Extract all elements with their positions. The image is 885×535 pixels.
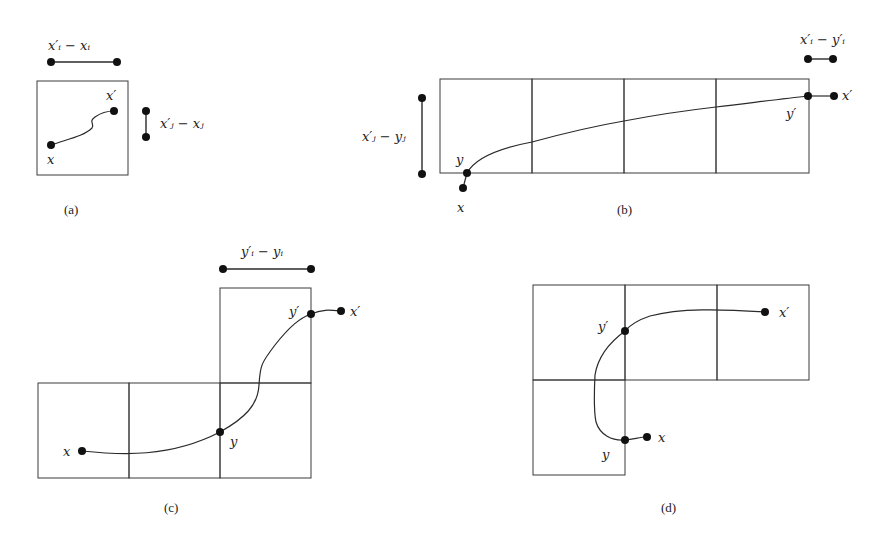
label-c-x: x bbox=[63, 444, 71, 459]
grid-cell bbox=[716, 79, 809, 173]
endpoint-dot bbox=[418, 94, 426, 102]
point-x bbox=[78, 447, 86, 455]
path-curve bbox=[51, 111, 114, 145]
endpoint-dot bbox=[142, 107, 150, 115]
label-d-y-prime: y′ bbox=[597, 319, 608, 334]
point-x-prime bbox=[337, 307, 345, 315]
endpoint-dot bbox=[804, 55, 812, 63]
panel-a: x′ᵢ − xᵢ x x′ x′ⱼ − xⱼ (a) bbox=[37, 38, 204, 217]
point-x bbox=[643, 433, 651, 441]
label-b-y: y bbox=[455, 152, 464, 167]
panel-b: x′ᵢ − y′ᵢ x′ⱼ − yⱼ x y y′ x′ (b) bbox=[362, 32, 852, 217]
label-d-y: y bbox=[601, 447, 610, 462]
endpoint-dot bbox=[142, 133, 150, 141]
grid-cell bbox=[625, 285, 717, 380]
figure: x′ᵢ − xᵢ x x′ x′ⱼ − xⱼ (a) x′ᵢ − y′ᵢ bbox=[0, 0, 885, 535]
point-y bbox=[216, 428, 224, 436]
grid-cell bbox=[440, 79, 532, 173]
point-x bbox=[47, 141, 55, 149]
caption-d: (d) bbox=[661, 500, 676, 515]
grid-cell bbox=[533, 380, 625, 475]
path-curve bbox=[467, 96, 808, 173]
label-d-x: x bbox=[658, 430, 666, 445]
label-a-horizontal-extent: x′ᵢ − xᵢ bbox=[48, 38, 90, 53]
point-y-prime bbox=[307, 310, 315, 318]
grid-cell bbox=[624, 79, 716, 173]
path-curve bbox=[594, 310, 765, 440]
label-b-y-prime: y′ bbox=[785, 106, 796, 121]
caption-b: (b) bbox=[617, 202, 632, 217]
point-x-prime bbox=[830, 92, 838, 100]
label-a-x-prime: x′ bbox=[106, 88, 116, 103]
label-c-x-prime: x′ bbox=[350, 304, 360, 319]
label-b-x: x bbox=[457, 200, 465, 215]
endpoint-dot bbox=[307, 265, 315, 273]
label-c-y: y bbox=[229, 434, 238, 449]
point-x-prime bbox=[761, 308, 769, 316]
grid-cell bbox=[38, 383, 129, 478]
endpoint-dot bbox=[418, 170, 426, 178]
grid-cell bbox=[717, 285, 809, 380]
point-y-prime bbox=[621, 327, 629, 335]
endpoint-dot bbox=[113, 58, 121, 66]
label-c-horizontal-extent: y′ᵢ − yᵢ bbox=[240, 244, 283, 259]
point-y-prime bbox=[804, 92, 812, 100]
endpoint-dot bbox=[47, 58, 55, 66]
point-x bbox=[459, 184, 467, 192]
grid-cell bbox=[220, 383, 311, 478]
panel-c: y′ᵢ − yᵢ x y y′ x′ (c) bbox=[38, 244, 360, 515]
grid-cell bbox=[220, 288, 311, 383]
label-d-x-prime: x′ bbox=[779, 305, 789, 320]
grid-cell bbox=[532, 79, 624, 173]
label-b-horizontal-extent: x′ᵢ − y′ᵢ bbox=[800, 32, 845, 47]
panel-d: x y y′ x′ (d) bbox=[533, 285, 809, 515]
grid-cell bbox=[533, 285, 625, 380]
label-a-x: x bbox=[47, 152, 55, 167]
endpoint-dot bbox=[219, 265, 227, 273]
point-y bbox=[463, 169, 471, 177]
label-b-vertical-extent: x′ⱼ − yⱼ bbox=[362, 129, 406, 144]
endpoint-dot bbox=[829, 55, 837, 63]
point-x-prime bbox=[110, 107, 118, 115]
caption-a: (a) bbox=[64, 202, 78, 217]
grid-cell bbox=[129, 383, 220, 478]
label-b-x-prime: x′ bbox=[842, 88, 852, 103]
label-a-vertical-extent: x′ⱼ − xⱼ bbox=[160, 116, 204, 131]
path-curve bbox=[82, 310, 341, 453]
point-y bbox=[621, 436, 629, 444]
caption-c: (c) bbox=[164, 500, 178, 515]
label-c-y-prime: y′ bbox=[288, 304, 299, 319]
